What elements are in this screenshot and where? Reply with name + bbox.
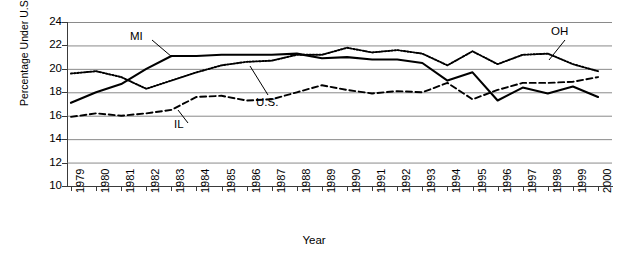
x-axis-tick-mark	[523, 186, 524, 191]
x-axis-tick-mark	[272, 186, 273, 191]
x-axis-tick-label: 1999	[567, 192, 580, 232]
series-label-us: U.S.	[256, 96, 278, 108]
x-axis-tick-label: 1982	[140, 192, 153, 232]
x-axis-tick-label: 1991	[366, 192, 379, 232]
x-axis-tick-mark	[573, 186, 574, 191]
x-axis-tick-mark	[598, 186, 599, 191]
series-label-il: IL	[174, 118, 184, 130]
x-axis-title: Year	[0, 234, 628, 246]
x-axis-tick-mark	[498, 186, 499, 191]
x-axis-tick-label: 1996	[492, 192, 505, 232]
x-axis-tick-label: 1995	[467, 192, 480, 232]
x-axis-tick-mark	[372, 186, 373, 191]
x-axis-tick-label: 1979	[65, 192, 78, 232]
data-series-layer	[67, 22, 612, 186]
series-label-oh: OH	[551, 25, 568, 37]
x-axis-tick-mark	[422, 186, 423, 191]
x-axis-tick-label: 1997	[517, 192, 530, 232]
series-line-oh	[71, 48, 598, 89]
x-axis-tick-label: 1993	[416, 192, 429, 232]
x-axis-tick-label: 1987	[266, 192, 279, 232]
y-axis-tick-label: 10	[40, 180, 62, 191]
x-axis-tick-mark	[297, 186, 298, 191]
x-axis-tick-label: 1998	[542, 192, 555, 232]
y-axis-tick-mark	[62, 186, 68, 187]
x-axis-tick-label: 1990	[341, 192, 354, 232]
x-axis-tick-mark	[71, 186, 72, 191]
y-axis-tick-mark	[62, 45, 68, 46]
y-axis-tick-label: 24	[40, 16, 62, 27]
y-axis-title: Percentage Under U.S. 20th Percentile	[18, 0, 32, 106]
series-line-us	[71, 48, 598, 89]
x-axis-tick-mark	[447, 186, 448, 191]
x-axis-tick-mark	[96, 186, 97, 191]
x-axis-tick-label: 1988	[291, 192, 304, 232]
plot-area	[67, 22, 612, 186]
x-axis-tick-mark	[222, 186, 223, 191]
series-label-mi: MI	[130, 30, 143, 42]
y-axis-tick-mark	[62, 92, 68, 93]
x-axis-tick-label: 1989	[316, 192, 329, 232]
x-axis-tick-mark	[347, 186, 348, 191]
x-axis-tick-mark	[146, 186, 147, 191]
y-axis-tick-label: 14	[40, 133, 62, 144]
y-axis-tick-mark	[62, 139, 68, 140]
y-axis-title-wrap: Percentage Under U.S. 20th Percentile	[2, 4, 16, 184]
x-axis-tick-mark	[121, 186, 122, 191]
y-axis-tick-mark	[62, 69, 68, 70]
x-axis-tick-label: 2000	[592, 192, 605, 232]
x-axis-tick-label: 1986	[241, 192, 254, 232]
y-axis-tick-mark	[62, 116, 68, 117]
x-axis-tick-mark	[397, 186, 398, 191]
x-axis-tick-mark	[196, 186, 197, 191]
y-axis-tick-label: 16	[40, 110, 62, 121]
x-axis-tick-mark	[322, 186, 323, 191]
x-axis-tick-mark	[171, 186, 172, 191]
x-axis-tick-label: 1981	[115, 192, 128, 232]
x-axis-tick-label: 1980	[90, 192, 103, 232]
x-axis-tick-mark	[247, 186, 248, 191]
x-axis-tick-label: 1983	[165, 192, 178, 232]
x-axis-tick-label: 1992	[391, 192, 404, 232]
x-axis-tick-label: 1994	[441, 192, 454, 232]
x-axis-tick-label: 1984	[190, 192, 203, 232]
series-line-mi	[71, 54, 598, 103]
y-axis-tick-mark	[62, 22, 68, 23]
series-line-il	[71, 77, 598, 117]
y-axis-tick-label: 20	[40, 63, 62, 74]
y-axis-ticks: 2422201816141210	[38, 0, 62, 256]
x-axis-tick-mark	[473, 186, 474, 191]
line-chart: Percentage Under U.S. 20th Percentile 24…	[0, 0, 628, 256]
x-axis-tick-label: 1985	[216, 192, 229, 232]
y-axis-tick-label: 18	[40, 86, 62, 97]
x-axis-tick-mark	[548, 186, 549, 191]
y-axis-tick-label: 22	[40, 39, 62, 50]
y-axis-tick-mark	[62, 163, 68, 164]
y-axis-tick-label: 12	[40, 157, 62, 168]
